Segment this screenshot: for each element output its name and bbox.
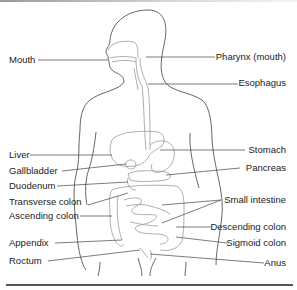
duodenum xyxy=(127,178,136,190)
tongue xyxy=(110,57,136,59)
leader-appendix xyxy=(55,240,122,243)
label-pharynx: Pharynx (mouth) xyxy=(216,51,286,62)
label-transverse-colon: Transverse colon xyxy=(9,196,82,207)
leader-duodenum xyxy=(57,182,128,186)
pancreas xyxy=(128,171,171,182)
gallbladder xyxy=(126,160,136,169)
label-mouth: Mouth xyxy=(9,54,35,65)
leader-pancreas xyxy=(166,168,240,175)
label-stomach: Stomach xyxy=(249,144,287,155)
label-rectum: Roctum xyxy=(9,255,42,266)
label-anus: Anus xyxy=(264,257,286,268)
label-esophagus: Esophagus xyxy=(238,77,286,88)
rectum xyxy=(140,248,148,258)
leader-gallbladder xyxy=(62,164,126,171)
leader-lines xyxy=(30,57,264,263)
label-duodenum: Duodenum xyxy=(9,180,55,191)
body-outline xyxy=(74,10,222,276)
digestive-system-diagram: Mouth Liver Gallbladder Duodenum Transve… xyxy=(0,0,297,290)
label-descending-colon: Descending colon xyxy=(210,221,286,232)
leader-small-intestine-1 xyxy=(162,200,221,205)
esophagus xyxy=(136,58,146,150)
label-gallbladder: Gallbladder xyxy=(9,165,58,176)
label-pancreas: Pancreas xyxy=(246,162,286,173)
liver xyxy=(110,131,164,166)
colon xyxy=(112,185,184,250)
label-appendix: Appendix xyxy=(9,237,49,248)
nasal-cavity xyxy=(108,41,138,58)
label-liver: Liver xyxy=(9,149,30,160)
label-small-intestine: Small intestine xyxy=(224,194,286,205)
bottom-rule xyxy=(6,284,293,286)
leader-small-intestine-2 xyxy=(162,200,221,223)
leader-transverse-colon xyxy=(88,193,128,205)
leader-rectum xyxy=(48,250,140,261)
label-sigmoid-colon: Sigmoid colon xyxy=(226,237,286,248)
label-ascending-colon: Ascending colon xyxy=(9,210,79,221)
leader-anus xyxy=(150,254,264,263)
